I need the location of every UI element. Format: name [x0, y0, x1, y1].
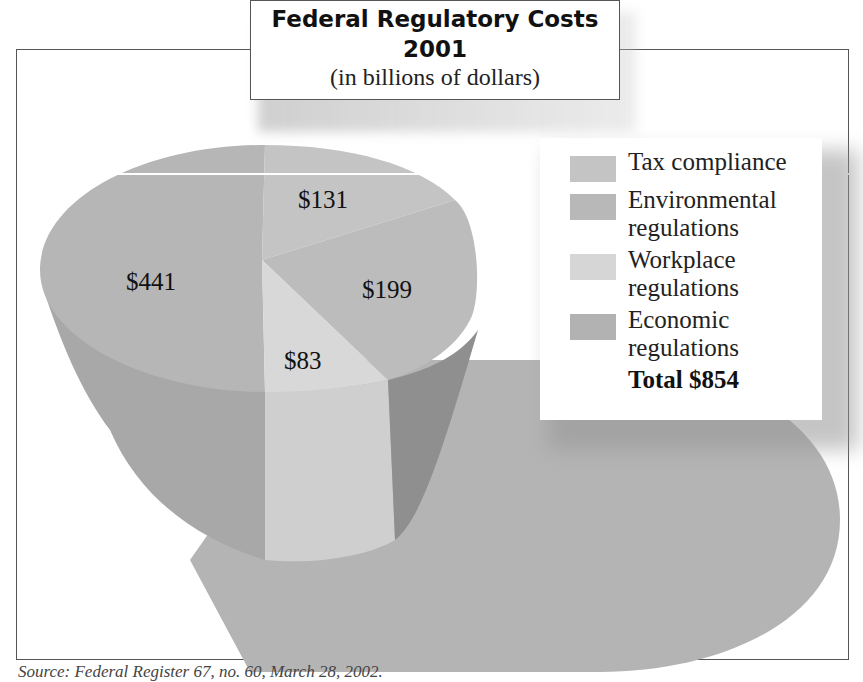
legend-item-tax: Tax compliance [570, 148, 822, 182]
legend-total: Total $854 [628, 366, 822, 394]
legend-item-environmental: Environmental regulations [570, 186, 822, 242]
chart-title-line2: 2001 [251, 37, 619, 61]
legend-label-environmental: Environmental regulations [628, 186, 808, 242]
legend-item-economic: Economic regulations [570, 306, 822, 362]
side-workplace [265, 380, 395, 561]
legend-swatch-workplace [570, 254, 616, 280]
legend-swatch-economic [570, 314, 616, 340]
label-economic: $441 [126, 268, 176, 296]
legend-swatch-environmental [570, 194, 616, 220]
legend: Tax compliance Environmental regulations… [540, 138, 822, 420]
legend-swatch-tax [570, 156, 616, 182]
chart-title-line1: Federal Regulatory Costs [251, 7, 619, 31]
legend-item-workplace: Workplace regulations [570, 246, 822, 302]
legend-label-economic: Economic regulations [628, 306, 808, 362]
chart-subtitle: (in billions of dollars) [251, 63, 619, 91]
legend-label-tax: Tax compliance [628, 148, 808, 176]
label-environmental: $199 [362, 276, 412, 304]
source-note: Source: Federal Register 67, no. 60, Mar… [18, 662, 383, 682]
label-workplace: $83 [284, 347, 322, 375]
legend-label-workplace: Workplace regulations [628, 246, 808, 302]
label-tax: $131 [298, 186, 348, 214]
chart-title-box: Federal Regulatory Costs 2001 (in billio… [250, 0, 620, 100]
